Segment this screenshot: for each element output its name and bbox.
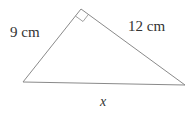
base-label: x	[99, 94, 107, 109]
left-side	[23, 9, 81, 82]
right-angle-marker	[75, 14, 88, 21]
base-side	[23, 82, 185, 85]
left-side-label: 9 cm	[10, 24, 40, 40]
right-side-label: 12 cm	[128, 18, 165, 34]
triangle-diagram: 9 cm 12 cm x	[0, 0, 193, 114]
